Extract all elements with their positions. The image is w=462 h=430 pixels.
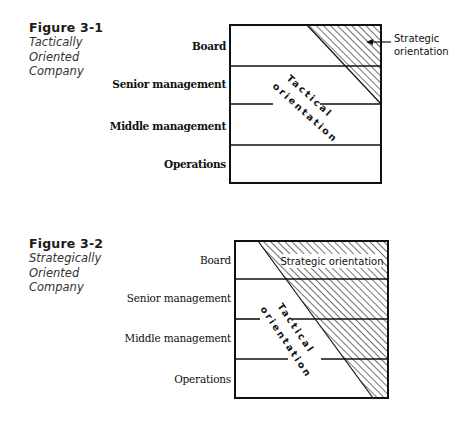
- level-label-middle-management: Middle management: [110, 120, 227, 132]
- level-label-board: Board: [200, 254, 232, 266]
- level-label-middle-management: Middle management: [125, 332, 232, 344]
- level-label-operations: Operations: [164, 158, 226, 170]
- figure-3-2-diagram: Strategic orientation Board Senior manag…: [125, 241, 388, 398]
- strategic-orientation-label: Strategic: [394, 33, 439, 44]
- strategic-orientation-label: orientation: [394, 46, 449, 57]
- level-label-operations: Operations: [174, 373, 231, 385]
- level-label-senior-management: Senior management: [127, 292, 232, 304]
- figure-3-1-diagram: Board Senior management Middle managemen…: [110, 25, 449, 183]
- level-label-senior-management: Senior management: [112, 78, 226, 90]
- strategic-orientation-label: Strategic orientation: [280, 256, 383, 267]
- level-label-board: Board: [192, 40, 227, 52]
- diagram-canvas: Board Senior management Middle managemen…: [0, 0, 462, 430]
